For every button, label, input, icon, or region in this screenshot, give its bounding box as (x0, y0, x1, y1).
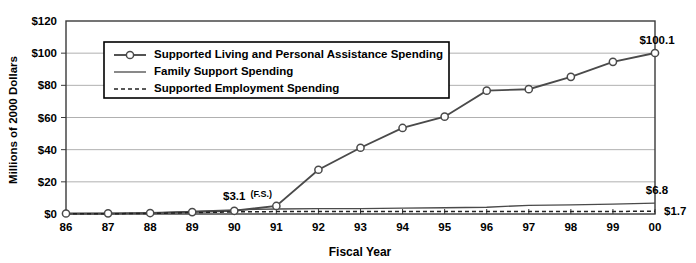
chart-canvas: $0$20$40$60$80$100$120 86878889909192939… (0, 0, 696, 263)
x-tick-label: 88 (144, 221, 157, 233)
y-axis-title: Millions of 2000 Dollars (7, 56, 19, 184)
x-tick-label: 87 (102, 221, 115, 233)
x-tick-label: 86 (60, 221, 73, 233)
data-point-marker (357, 144, 364, 151)
data-point-marker (62, 210, 69, 217)
spending-line-chart: $0$20$40$60$80$100$120 86878889909192939… (0, 0, 696, 263)
data-point-marker (567, 73, 574, 80)
data-point-marker (231, 207, 238, 214)
annotation-label: $1.7 (664, 205, 686, 217)
legend-item-label: Family Support Spending (154, 65, 293, 77)
data-point-marker (104, 210, 111, 217)
x-tick-label: 97 (522, 221, 535, 233)
y-tick-label: $60 (38, 112, 57, 124)
y-tick-label: $0 (44, 208, 57, 220)
annotation-label: $6.8 (646, 184, 669, 196)
data-point-marker (651, 49, 658, 56)
x-tick-label: 00 (649, 221, 662, 233)
x-tick-label: 93 (354, 221, 367, 233)
data-point-marker (525, 86, 532, 93)
data-point-marker (609, 58, 616, 65)
chart-legend: Supported Living and Personal Assistance… (104, 42, 449, 98)
data-point-marker (399, 124, 406, 131)
annotation-sublabel: (F.S.) (250, 189, 272, 199)
annotation-label: $3.1 (223, 190, 246, 202)
data-point-marker (147, 209, 154, 216)
x-tick-label: 98 (564, 221, 577, 233)
legend-item-label: Supported Living and Personal Assistance… (154, 48, 443, 60)
y-tick-label: $20 (38, 176, 57, 188)
data-point-marker (273, 202, 280, 209)
y-tick-label: $40 (38, 144, 57, 156)
x-tick-label: 90 (228, 221, 241, 233)
x-tick-label: 96 (480, 221, 493, 233)
y-tick-label: $100 (31, 47, 57, 59)
y-axis-tick-labels: $0$20$40$60$80$100$120 (31, 15, 57, 220)
data-point-marker (483, 87, 490, 94)
y-tick-label: $80 (38, 79, 57, 91)
x-tick-label: 92 (312, 221, 325, 233)
x-tick-label: 89 (186, 221, 199, 233)
x-tick-label: 95 (438, 221, 451, 233)
x-axis-tick-labels: 868788899091929394959697989900 (60, 221, 662, 233)
x-tick-label: 99 (607, 221, 620, 233)
legend-item-label: Supported Employment Spending (154, 82, 339, 94)
x-tick-label: 94 (396, 221, 409, 233)
x-axis-title: Fiscal Year (329, 245, 392, 259)
legend-marker-icon (126, 51, 133, 58)
annotation-label: $100.1 (639, 34, 675, 46)
x-tick-label: 91 (270, 221, 283, 233)
data-point-marker (189, 208, 196, 215)
y-axis-tick-marks (61, 53, 66, 182)
y-tick-label: $120 (31, 15, 57, 27)
data-point-marker (441, 113, 448, 120)
data-point-marker (315, 166, 322, 173)
